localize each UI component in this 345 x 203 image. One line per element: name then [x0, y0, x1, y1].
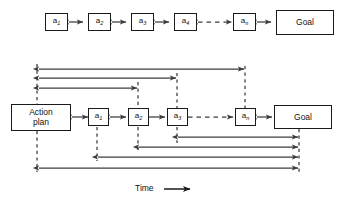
bottom-node-a3[interactable]: a3 — [167, 108, 188, 126]
bottom-node-goal[interactable]: Goal — [274, 105, 332, 129]
top-node-a2-label: a2 — [96, 17, 104, 26]
top-node-a2[interactable]: a2 — [88, 13, 111, 31]
time-axis-label: Time — [135, 183, 154, 193]
top-node-a1[interactable]: a1 — [45, 13, 68, 31]
feedback-arrows-above — [39, 69, 244, 88]
bottom-node-a2[interactable]: a2 — [128, 108, 149, 126]
bottom-node-a2-label: a2 — [135, 112, 143, 121]
feedback-arrows-below — [39, 137, 298, 168]
figure-root: a1 a2 a3 a4 an Goal Action plan a1 a2 a3… — [0, 0, 345, 203]
top-node-a3-label: a3 — [139, 17, 147, 26]
top-node-an-label: an — [241, 17, 249, 26]
bottom-node-a3-label: a3 — [174, 112, 182, 121]
top-node-a4[interactable]: a4 — [174, 13, 197, 31]
bottom-node-a1-label: a1 — [95, 112, 103, 121]
action-plan-line2: plan — [33, 118, 49, 128]
top-node-a4-label: a4 — [182, 17, 190, 26]
bottom-node-an-label: an — [242, 112, 250, 121]
top-node-an[interactable]: an — [233, 13, 256, 31]
top-node-a1-label: a1 — [53, 17, 61, 26]
bottom-node-action-plan[interactable]: Action plan — [11, 104, 71, 131]
top-node-a3[interactable]: a3 — [131, 13, 154, 31]
bottom-node-a1[interactable]: a1 — [88, 108, 109, 126]
bottom-node-an[interactable]: an — [235, 108, 256, 126]
top-node-goal[interactable]: Goal — [276, 10, 334, 35]
